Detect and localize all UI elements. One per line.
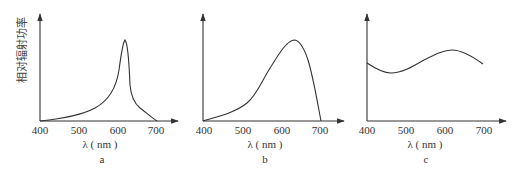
chart-b-tick-700: 700 (312, 124, 329, 136)
y-axis-label: 相对辐射功率 (15, 17, 29, 83)
chart-b-tick-400: 400 (196, 124, 213, 136)
chart-b-x-label: λ ( nm ) (248, 138, 283, 151)
chart-c-tick-700: 700 (476, 124, 493, 136)
chart-b-tick-600: 600 (274, 124, 291, 136)
chart-b: 400 500 600 700 λ ( nm ) b (196, 14, 344, 165)
chart-b-tick-500: 500 (235, 124, 252, 136)
chart-a-tick-700: 700 (148, 124, 165, 136)
chart-c: 400 500 600 700 λ ( nm ) c (359, 14, 506, 165)
chart-a-panel-label: a (100, 153, 105, 165)
chart-b-panel-label: b (262, 153, 268, 165)
chart-c-panel-label: c (424, 153, 429, 165)
chart-c-tick-600: 600 (437, 124, 454, 136)
chart-c-tick-500: 500 (398, 124, 415, 136)
spectral-power-charts: 相对辐射功率 400 500 600 700 λ ( nm ) a 400 50… (0, 0, 521, 178)
chart-a: 400 500 600 700 λ ( nm ) a (32, 14, 178, 165)
chart-a-curve (40, 40, 157, 121)
chart-a-tick-400: 400 (32, 124, 49, 136)
chart-b-curve (203, 40, 321, 121)
chart-c-tick-400: 400 (359, 124, 376, 136)
chart-a-tick-600: 600 (110, 124, 127, 136)
chart-c-curve (367, 50, 483, 73)
chart-a-tick-500: 500 (71, 124, 88, 136)
chart-a-x-label: λ ( nm ) (83, 138, 118, 151)
chart-c-x-label: λ ( nm ) (408, 138, 443, 151)
